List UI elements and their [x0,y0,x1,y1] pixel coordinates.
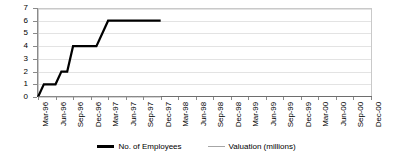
legend-label: Valuation (millions) [229,142,296,151]
legend-line-icon [208,146,225,147]
x-tick-label: Dec-97 [165,102,173,127]
legend-label: No. of Employees [118,142,181,151]
y-tick-mark [33,59,37,60]
x-tick-mark [231,97,232,100]
x-tick-mark [38,97,39,100]
x-tick-label: Jun-99 [270,102,278,126]
x-tick-label: Jun-00 [340,102,348,126]
y-tick-mark [33,72,37,73]
y-tick-label: 2 [24,68,28,76]
x-tick-mark [353,97,354,100]
x-tick-label: Sep-96 [77,102,85,127]
chart-legend: No. of EmployeesValuation (millions) [0,139,393,153]
y-tick-label: 3 [24,55,28,63]
x-tick-label: Mar-98 [182,102,190,127]
y-tick-mark [33,97,37,98]
y-tick-label: 1 [24,80,28,88]
x-tick-label: Mar-99 [252,102,260,127]
legend-line-icon [97,145,114,148]
x-tick-mark [91,97,92,100]
x-tick-label: Sep-97 [147,102,155,127]
employee-valuation-line-chart: 01234567 No. of EmployeesValuation (mill… [0,0,393,160]
y-tick-mark [33,33,37,34]
y-tick-mark [33,46,37,47]
x-tick-mark [213,97,214,100]
x-tick-mark [283,97,284,100]
y-tick-label: 4 [24,42,28,50]
x-tick-label: Dec-99 [305,102,313,127]
x-tick-label: Dec-00 [375,102,383,127]
x-tick-label: Sep-00 [357,102,365,127]
y-tick-label: 0 [24,93,28,101]
x-tick-mark [318,97,319,100]
x-tick-mark [56,97,57,100]
y-tick-label: 7 [24,4,28,12]
x-tick-mark [143,97,144,100]
x-tick-mark [371,97,372,100]
x-tick-label: Mar-96 [42,102,50,127]
x-tick-mark [178,97,179,100]
x-tick-label: Sep-98 [217,102,225,127]
series-line-0 [38,21,161,97]
legend-item[interactable]: Valuation (millions) [208,142,296,151]
y-axis: 01234567 [0,8,32,97]
x-tick-mark [126,97,127,100]
x-tick-label: Dec-98 [235,102,243,127]
y-tick-label: 6 [24,17,28,25]
x-tick-mark [196,97,197,100]
x-tick-mark [108,97,109,100]
x-tick-mark [336,97,337,100]
y-tick-mark [33,8,37,9]
x-tick-label: Jun-96 [60,102,68,126]
x-tick-mark [266,97,267,100]
y-tick-mark [33,21,37,22]
x-tick-label: Sep-99 [287,102,295,127]
y-tick-label: 5 [24,29,28,37]
x-tick-mark [73,97,74,100]
x-tick-label: Mar-00 [322,102,330,127]
x-tick-label: Jun-97 [130,102,138,126]
x-tick-label: Dec-96 [95,102,103,127]
x-tick-mark [248,97,249,100]
x-tick-label: Jun-98 [200,102,208,126]
x-tick-label: Mar-97 [112,102,120,127]
x-tick-mark [161,97,162,100]
legend-item[interactable]: No. of Employees [97,142,181,151]
y-tick-mark [33,84,37,85]
x-tick-mark [301,97,302,100]
series-layer [38,8,372,97]
